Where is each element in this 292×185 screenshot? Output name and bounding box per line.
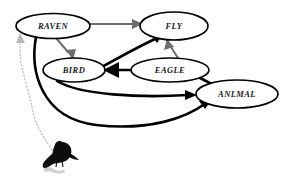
edge-raven-bird: [56, 38, 76, 60]
node-eagle[interactable]: EAGLE: [131, 58, 209, 82]
node-animal[interactable]: ANLMAL: [196, 80, 278, 108]
node-fly[interactable]: FLY: [140, 12, 208, 40]
node-bird[interactable]: BIRD: [43, 58, 105, 82]
node-animal-label: ANLMAL: [217, 89, 256, 99]
edge-eagle-fly: [164, 39, 178, 58]
node-fly-label: FLY: [165, 21, 183, 31]
edge-eagle-fly-line: [171, 47, 178, 58]
node-raven[interactable]: RAVEN: [16, 14, 90, 39]
semantic-network-graph: RAVEN FLY BIRD EAGLE ANLMAL: [0, 0, 292, 185]
raven-perch-branch: [44, 167, 65, 174]
edge-bird-animal-line: [57, 81, 188, 96]
raven-tail: [68, 152, 79, 160]
node-raven-label: RAVEN: [37, 21, 69, 31]
edge-raven-fly: [90, 19, 143, 29]
edge-bird-animal: [57, 81, 197, 100]
node-bird-label: BIRD: [62, 65, 85, 75]
edge-bird-animal-arrowhead: [185, 90, 197, 100]
node-eagle-label: EAGLE: [154, 65, 185, 75]
diagram-canvas: RAVEN FLY BIRD EAGLE ANLMAL: [0, 0, 292, 185]
edge-raven-bird-line: [56, 38, 68, 52]
raven-illustration: [43, 141, 80, 174]
